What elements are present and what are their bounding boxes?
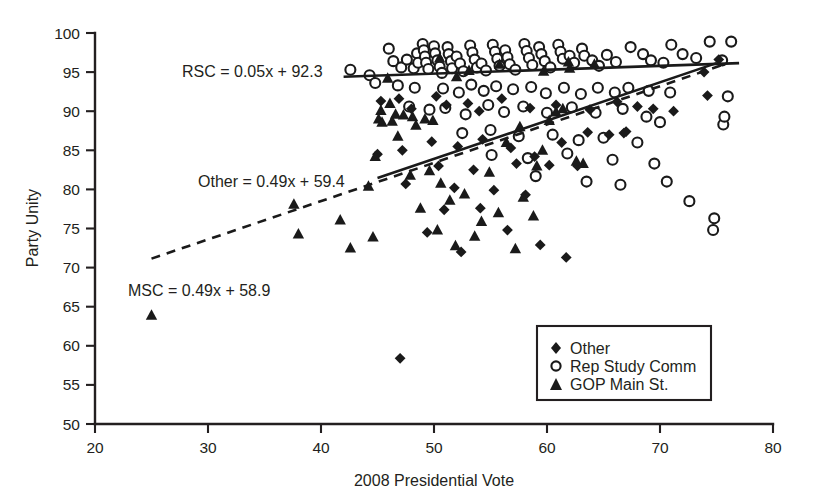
data-point-circle: [662, 177, 672, 187]
annotation-rsc-equation: RSC = 0.05x + 92.3: [182, 63, 323, 80]
x-axis-title: 2008 Presidential Vote: [354, 472, 514, 489]
data-point-circle: [461, 109, 471, 119]
x-tick-label: 20: [86, 439, 104, 456]
data-point-triangle: [450, 240, 461, 251]
data-point-triangle: [335, 214, 346, 225]
data-point-circle: [709, 213, 719, 223]
data-point-circle: [541, 88, 551, 98]
data-point-circle: [345, 65, 355, 75]
data-point-circle: [641, 112, 651, 122]
y-tick-label: 80: [63, 181, 81, 198]
data-point-triangle: [459, 188, 470, 199]
data-point-diamond: [502, 225, 513, 236]
data-point-circle: [593, 83, 603, 93]
x-tick-marks: [95, 424, 773, 433]
data-point-circle: [691, 53, 701, 63]
annotation-msc-equation: MSC = 0.49x + 58.9: [128, 282, 270, 299]
data-point-circle: [611, 57, 621, 67]
series-other: [372, 54, 724, 364]
annotation-other-equation: Other = 0.49x + 59.4: [198, 173, 345, 190]
data-point-triangle: [493, 207, 504, 218]
data-point-diamond: [668, 106, 679, 117]
data-point-circle: [576, 89, 586, 99]
y-tick-label: 90: [63, 103, 81, 120]
y-axis-title: Party Unity: [24, 189, 41, 267]
data-point-triangle: [293, 228, 304, 239]
data-point-triangle: [288, 198, 299, 209]
data-point-diamond: [422, 227, 433, 238]
data-point-diamond: [582, 127, 593, 138]
legend-label-other: Other: [570, 340, 611, 357]
data-point-circle: [531, 171, 541, 181]
data-point-circle: [626, 42, 636, 52]
data-point-circle: [393, 80, 403, 90]
y-tick-label: 85: [63, 142, 80, 159]
data-point-circle: [384, 44, 394, 54]
data-point-triangle: [435, 177, 446, 188]
data-point-circle: [491, 81, 501, 91]
y-tick-label: 95: [63, 64, 80, 81]
data-point-triangle: [367, 231, 378, 242]
data-point-diamond: [463, 98, 474, 109]
data-point-circle: [487, 150, 497, 160]
data-point-circle: [602, 50, 612, 60]
data-point-triangle: [469, 230, 480, 241]
data-point-diamond: [475, 203, 486, 214]
data-point-triangle: [531, 160, 542, 171]
data-point-diamond: [535, 240, 546, 251]
data-point-circle: [499, 107, 509, 117]
data-point-circle: [486, 125, 496, 135]
data-point-circle: [483, 100, 493, 110]
data-point-circle: [684, 196, 694, 206]
data-point-circle: [618, 104, 628, 114]
data-point-diamond: [439, 204, 450, 215]
data-point-circle: [508, 84, 518, 94]
data-point-diamond: [632, 101, 643, 112]
data-point-diamond: [496, 93, 507, 104]
data-point-diamond: [400, 179, 411, 190]
x-tick-label: 40: [312, 439, 330, 456]
y-tick-label: 60: [63, 337, 81, 354]
x-tick-label: 70: [651, 439, 669, 456]
data-point-diamond: [433, 161, 444, 172]
data-point-circle: [424, 105, 434, 115]
data-point-triangle: [510, 243, 521, 254]
y-tick-label: 100: [54, 25, 80, 42]
data-point-diamond: [511, 158, 522, 169]
y-tick-label: 75: [63, 220, 80, 237]
data-point-diamond: [488, 185, 499, 196]
data-point-circle: [454, 87, 464, 97]
data-point-triangle: [444, 194, 455, 205]
data-point-circle: [466, 80, 476, 90]
data-point-diamond: [449, 182, 460, 193]
y-tick-label: 65: [63, 298, 80, 315]
data-point-diamond: [702, 90, 713, 101]
data-point-circle: [632, 137, 642, 147]
x-tick-label: 50: [425, 439, 443, 456]
data-point-circle: [526, 82, 536, 92]
data-point-triangle: [375, 104, 386, 115]
data-point-circle: [562, 148, 572, 158]
y-tick-label: 55: [63, 376, 80, 393]
data-point-diamond: [544, 160, 555, 171]
data-point-circle: [726, 37, 736, 47]
data-point-triangle: [476, 215, 487, 226]
data-point-triangle: [345, 242, 356, 253]
data-point-triangle: [415, 202, 426, 213]
data-point-triangle: [484, 166, 495, 177]
data-point-circle: [410, 83, 420, 93]
data-point-circle: [370, 78, 380, 88]
y-tick-label: 50: [63, 416, 81, 433]
data-point-circle: [559, 83, 569, 93]
data-point-triangle: [427, 115, 438, 126]
x-axis-tick-labels: 20304050607080: [86, 439, 782, 456]
data-point-circle: [402, 55, 412, 65]
x-tick-label: 60: [538, 439, 556, 456]
data-point-circle: [548, 130, 558, 140]
data-point-diamond: [395, 353, 406, 364]
x-tick-label: 80: [764, 439, 782, 456]
y-tick-label: 70: [63, 259, 81, 276]
legend-label-gop-main-st: GOP Main St.: [570, 376, 668, 393]
y-axis-tick-labels: 50556065707580859095100: [54, 25, 80, 433]
circle-icon: [551, 361, 560, 370]
